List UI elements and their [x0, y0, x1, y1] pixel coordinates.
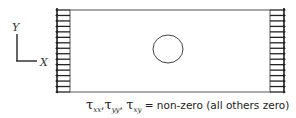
arrow-right-icon — [270, 30, 286, 33]
arrow-left-icon — [55, 36, 70, 39]
stress-terms: τxx,τyy, τxy — [86, 99, 141, 111]
arrow-right-icon — [270, 90, 286, 93]
stress-caption: τxx,τyy, τxy = non-zero (all others zero… — [86, 97, 289, 114]
arrow-left-icon — [55, 47, 70, 50]
arrow-right-icon — [270, 36, 286, 39]
arrow-left-icon — [55, 52, 70, 55]
x-axis-label: X — [39, 56, 49, 69]
arrow-right-icon — [270, 14, 286, 17]
arrow-right-icon — [270, 58, 286, 61]
y-axis-label: Y — [12, 21, 21, 34]
arrow-left-icon — [55, 30, 70, 33]
arrow-left-icon — [55, 58, 70, 61]
arrow-left-icon — [55, 63, 70, 66]
arrow-left-icon — [55, 25, 70, 28]
arrow-right-icon — [270, 74, 286, 77]
arrow-left-icon — [55, 41, 70, 44]
arrow-left-icon — [55, 8, 70, 11]
arrow-left-icon — [55, 85, 70, 88]
tau-subscript: yy — [112, 106, 120, 114]
arrow-right-icon — [270, 8, 286, 11]
arrow-right-icon — [270, 52, 286, 55]
arrow-right-icon — [270, 47, 286, 50]
right-traction-arrows — [270, 8, 286, 94]
arrow-left-icon — [55, 90, 70, 93]
arrow-left-icon — [55, 74, 70, 77]
arrow-left-icon — [55, 79, 70, 82]
arrow-right-icon — [270, 79, 286, 82]
arrow-right-icon — [270, 19, 286, 22]
plate — [70, 10, 270, 92]
caption-text: = non-zero (all others zero) — [141, 99, 289, 111]
arrow-left-icon — [55, 19, 70, 22]
tau-subscript: xx — [93, 106, 101, 114]
arrow-right-icon — [270, 25, 286, 28]
arrow-left-icon — [55, 69, 70, 72]
arrow-right-icon — [270, 63, 286, 66]
left-traction-arrows — [55, 8, 70, 94]
arrow-right-icon — [270, 69, 286, 72]
tau-symbol: τ — [104, 97, 111, 112]
arrow-left-icon — [55, 14, 70, 17]
arrow-right-icon — [270, 41, 286, 44]
arrow-right-icon — [270, 85, 286, 88]
coordinate-axes: Y X — [12, 21, 49, 69]
